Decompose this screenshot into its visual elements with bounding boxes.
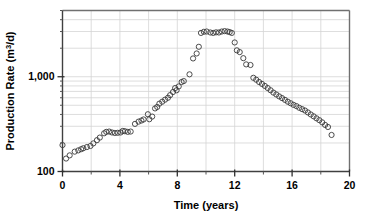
x-tick-label: 8 bbox=[174, 179, 180, 191]
x-axis-title: Time (years) bbox=[174, 199, 239, 211]
chart-figure: 1001,000048121620 Time (years) Productio… bbox=[0, 0, 372, 217]
y-axis-title-suffix: /d) bbox=[4, 31, 16, 45]
x-axis-title-group: Time (years) bbox=[174, 199, 239, 211]
x-tick-label: 0 bbox=[60, 179, 66, 191]
chart-background bbox=[0, 0, 372, 217]
x-tick-label: 20 bbox=[344, 179, 356, 191]
x-tick-label: 12 bbox=[229, 179, 241, 191]
production-rate-scatter-chart: 1001,000048121620 Time (years) Productio… bbox=[0, 0, 372, 217]
y-axis-title-prefix: Production Rate (m bbox=[4, 49, 16, 151]
y-tick-label: 100 bbox=[37, 165, 55, 177]
y-tick-label: 1,000 bbox=[28, 70, 54, 82]
x-tick-label: 16 bbox=[286, 179, 298, 191]
x-tick-label: 4 bbox=[117, 179, 123, 191]
